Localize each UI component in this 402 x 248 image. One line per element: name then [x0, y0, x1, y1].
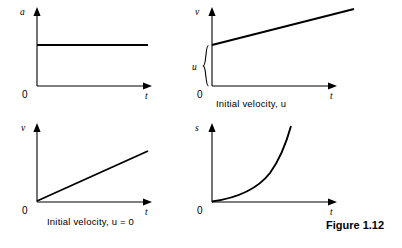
y-axis-label: a — [20, 7, 25, 17]
velocity-line — [37, 151, 148, 201]
chart-velocity-time-from-rest: v t 0 — [8, 118, 178, 218]
x-axis-arrowhead — [328, 198, 337, 205]
y-axis-arrowhead — [208, 7, 215, 16]
origin-label: 0 — [22, 89, 28, 100]
chart-velocity-time-initial-u: v t 0 u — [182, 2, 362, 102]
y-axis-label: s — [195, 123, 199, 133]
y-axis-arrowhead — [33, 7, 40, 16]
x-axis-arrowhead — [143, 82, 152, 89]
chart-acceleration-time: a t 0 — [8, 2, 178, 102]
origin-label: 0 — [197, 205, 203, 216]
displacement-parabola — [212, 126, 291, 202]
caption-initial-velocity-zero: Initial velocity, u = 0 — [47, 216, 134, 227]
initial-velocity-brace — [203, 46, 208, 87]
x-axis-label: t — [330, 91, 333, 101]
x-axis-label: t — [145, 207, 148, 217]
caption-initial-velocity-u: Initial velocity, u — [216, 98, 286, 109]
brace-label-u: u — [192, 62, 197, 72]
y-axis-arrowhead — [208, 123, 215, 132]
figure-1-12: a t 0 v t 0 u Initial velocity, u v t 0 — [0, 0, 402, 248]
y-axis-arrowhead — [33, 123, 40, 132]
y-axis-label: v — [195, 7, 200, 17]
velocity-line — [212, 9, 354, 45]
chart-displacement-time: s t 0 — [182, 118, 362, 218]
figure-caption: Figure 1.12 — [326, 219, 384, 231]
origin-label: 0 — [197, 89, 203, 100]
x-axis-label: t — [145, 91, 148, 101]
y-axis-label: v — [21, 123, 26, 133]
x-axis-label: t — [330, 207, 333, 217]
x-axis-arrowhead — [143, 198, 152, 205]
x-axis-arrowhead — [328, 82, 337, 89]
origin-label: 0 — [22, 205, 28, 216]
